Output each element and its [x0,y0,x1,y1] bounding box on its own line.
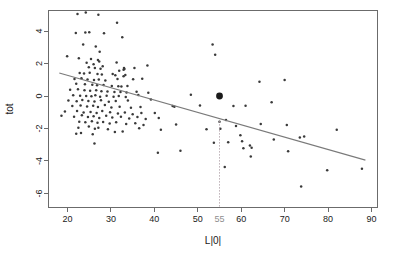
data-point [96,73,99,76]
data-point [135,91,138,94]
data-point [250,155,253,158]
data-point [78,72,81,75]
data-point [66,55,69,58]
data-point [98,117,101,120]
data-point [79,104,82,107]
data-point [118,95,121,98]
data-point [75,32,78,35]
data-point [250,146,253,149]
data-point [111,116,114,119]
data-point [326,169,329,172]
data-point [91,133,94,136]
data-point [132,78,135,81]
y-axis-title: tot [4,103,15,114]
data-point [90,58,93,61]
data-point [105,94,108,97]
data-point [144,118,147,121]
data-point [93,142,96,145]
data-point [85,11,88,14]
data-point [121,130,124,133]
data-point [101,73,104,76]
data-point [91,83,94,86]
data-point [99,68,102,71]
data-point [88,71,91,74]
data-point [88,66,91,69]
data-point [81,99,84,102]
y-tick-label: 2 [34,61,44,66]
x-tick-label-highlight: 55 [215,214,225,224]
data-point [97,106,100,109]
data-point [89,89,92,92]
data-point [138,127,141,130]
x-tick-label: 80 [323,214,333,224]
data-point [128,117,131,120]
data-point [133,67,136,70]
data-point [130,106,133,109]
y-tick-label: 0 [34,94,44,99]
data-point [101,65,104,68]
data-point [103,32,106,35]
data-point [104,104,107,107]
data-point [273,138,276,141]
data-point [242,147,245,150]
data-point [157,117,160,120]
data-point [131,113,134,116]
data-point [287,150,290,153]
data-point [79,94,82,97]
data-point [92,105,95,108]
data-point [300,185,303,188]
data-point [117,112,120,115]
data-point [249,144,252,147]
data-point [77,88,80,91]
plot-canvas: 203040506070809055 420-2-4-6 L|0| tot [0,0,393,260]
data-point [160,129,163,132]
data-point [270,101,273,104]
data-point [93,100,96,103]
data-point [78,57,81,60]
data-point [85,95,88,98]
y-axis-ticks: 420-2-4-6 [34,29,48,198]
data-point [140,112,143,115]
data-point [87,100,90,103]
data-point [115,121,118,124]
data-point [124,96,127,99]
data-point [244,105,247,108]
data-point [241,140,244,143]
x-tick-label: 40 [149,214,159,224]
data-point [72,94,75,97]
data-point [361,167,364,170]
data-point [227,141,230,144]
data-point [94,128,97,131]
data-point [114,131,117,134]
data-point [157,152,160,155]
data-point [205,128,208,131]
data-point [76,13,79,16]
data-point [110,106,113,109]
data-point [239,134,242,137]
data-point [121,36,124,39]
data-point [83,89,86,92]
data-point [124,74,127,77]
data-point [119,91,122,94]
data-point [91,120,94,123]
data-point [175,123,178,126]
data-point [118,70,121,73]
data-point [86,105,89,108]
x-tick-label: 90 [366,214,376,224]
data-point [286,124,289,127]
x-tick-label: 20 [63,214,73,224]
data-point [258,80,261,83]
data-point [104,79,107,82]
data-point [136,116,139,119]
data-point [223,166,226,169]
data-point [105,115,108,118]
data-points [60,11,363,188]
data-point [98,60,101,63]
data-point [213,142,216,145]
data-point [109,111,112,114]
data-point [111,85,114,88]
data-point [235,125,238,128]
data-point [77,126,80,129]
data-point [84,121,87,124]
data-point [97,14,100,16]
